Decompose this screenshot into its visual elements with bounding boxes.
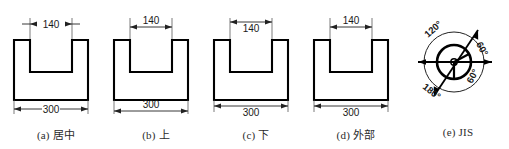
dimension-text-140: 140	[343, 15, 360, 26]
figure-b-above: 140 300 (b) 上	[106, 0, 206, 149]
figure-a-centered: 140 300 (a) 居中	[6, 0, 106, 149]
dimension-text-300: 300	[343, 107, 360, 118]
angle-label-120: 120°	[422, 18, 444, 39]
figure-c-svg: 140 300	[206, 0, 306, 126]
figure-d-svg: 140 300	[306, 0, 406, 126]
figure-c-below: 140 300 (c) 下	[206, 0, 306, 149]
figure-d-caption-index: (d)	[337, 129, 350, 141]
figure-e-caption: (e) JIS	[408, 126, 508, 138]
dimension-text-300: 300	[243, 107, 260, 118]
dimension-text-140: 140	[143, 15, 160, 26]
figure-b-caption: (b) 上	[106, 126, 206, 142]
figure-c-caption: (c) 下	[206, 126, 306, 142]
figure-e-caption-name: JIS	[459, 126, 474, 138]
figure-a-caption: (a) 居中	[6, 126, 106, 142]
figure-e-svg: 120° 60° 180° 60°	[408, 0, 508, 126]
figure-b-caption-index: (b)	[142, 129, 155, 141]
figure-a-caption-name: 居中	[53, 129, 75, 142]
u-profile-outline	[214, 40, 288, 100]
figure-e-jis: 120° 60° 180° 60° (e) JIS	[408, 0, 508, 149]
u-profile-outline	[314, 40, 388, 100]
figure-b-caption-name: 上	[159, 129, 170, 142]
figure-d-outside: 140 300 (d) 外部	[306, 0, 406, 149]
dimension-text-300: 300	[143, 99, 160, 110]
figure-a-caption-index: (a)	[37, 129, 50, 141]
dimension-text-300: 300	[43, 104, 60, 115]
dimension-text-140: 140	[43, 19, 60, 30]
u-profile-outline	[114, 40, 188, 100]
figure-a-svg: 140 300	[6, 0, 106, 126]
figure-c-caption-index: (c)	[243, 129, 256, 141]
figure-c-caption-name: 下	[258, 129, 269, 142]
figure-e-caption-index: (e)	[443, 126, 456, 138]
figure-b-svg: 140 300	[106, 0, 206, 126]
dimension-text-140: 140	[243, 23, 260, 34]
figure-d-caption: (d) 外部	[306, 126, 406, 142]
figure-d-caption-name: 外部	[353, 129, 375, 142]
angle-label-60-bottom: 60°	[464, 67, 481, 85]
angle-label-180: 180°	[421, 81, 443, 102]
drawing-sheet: 140 300 (a) 居中	[0, 0, 509, 149]
u-profile-outline	[14, 40, 88, 100]
